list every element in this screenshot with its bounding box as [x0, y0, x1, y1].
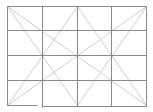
- grid-diagram: [0, 0, 153, 112]
